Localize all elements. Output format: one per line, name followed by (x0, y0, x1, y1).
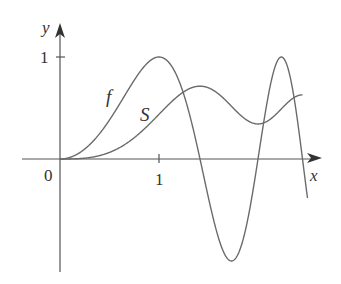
curve-s-label: S (140, 104, 150, 125)
axes (22, 30, 316, 272)
y-axis-label: y (40, 18, 50, 37)
x-tick-label: 1 (155, 170, 164, 189)
curve-s (60, 86, 303, 159)
curve-f-label: f (106, 86, 114, 107)
fresnel-plot: y 1 0 1 x f S (0, 0, 341, 284)
x-axis-arrow-icon (307, 153, 322, 163)
x-axis-label: x (309, 166, 318, 185)
origin-label: 0 (44, 166, 53, 185)
y-tick-label: 1 (40, 48, 49, 67)
